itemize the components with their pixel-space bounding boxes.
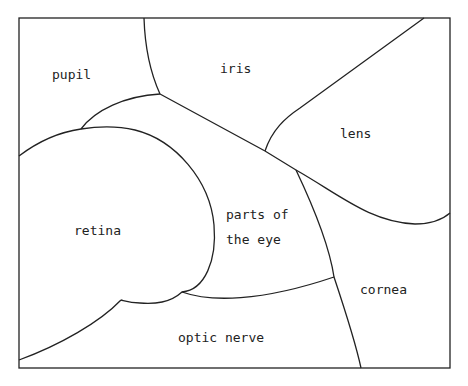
region-label-lens: lens [340, 122, 371, 146]
retina-optic-divider [19, 300, 121, 360]
eye-parts-diagram: pupil iris lens retina parts of the eye … [0, 0, 468, 386]
center-label-line1: parts of [226, 203, 289, 227]
region-label-pupil: pupil [52, 63, 91, 87]
center-upper-left-arc [81, 94, 160, 129]
region-label-optic-nerve: optic nerve [178, 326, 264, 350]
center-optic-divider [182, 277, 334, 298]
region-label-iris: iris [220, 57, 251, 81]
pupil-retina-divider [19, 129, 81, 156]
center-label-line2: the eye [226, 228, 281, 252]
pupil-iris-divider [144, 18, 160, 94]
region-label-retina: retina [74, 219, 121, 243]
region-label-cornea: cornea [360, 278, 407, 302]
retina-boundary [81, 127, 214, 303]
center-cornea-divider [296, 170, 361, 368]
lens-cornea-divider [296, 170, 450, 224]
iris-center-divider [160, 94, 296, 170]
